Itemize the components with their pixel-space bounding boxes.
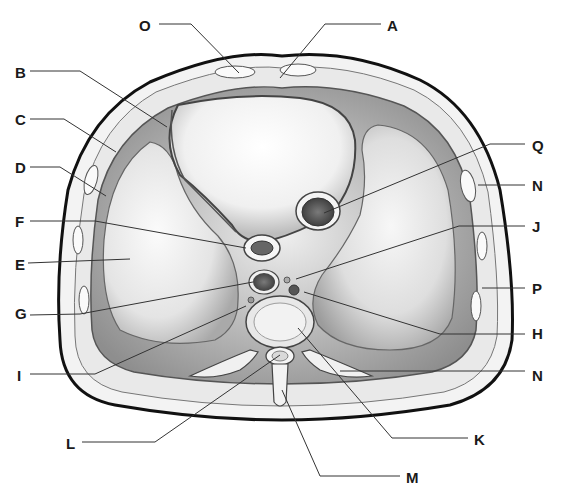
label-l: L [66, 436, 75, 451]
leader-line-l [82, 355, 280, 442]
leader-line-q [324, 144, 525, 213]
leader-line-k [298, 328, 468, 438]
label-n-lower: N [532, 368, 543, 383]
leader-lines [0, 0, 561, 498]
leader-line-g [30, 282, 253, 315]
label-q: Q [532, 138, 544, 153]
label-i: I [17, 368, 21, 383]
leader-line-f [30, 221, 246, 248]
label-b: B [15, 65, 26, 80]
leader-line-j [296, 226, 525, 279]
leader-line-c [30, 119, 116, 152]
label-m: M [406, 470, 419, 485]
label-d: D [15, 160, 26, 175]
label-a: A [387, 18, 398, 33]
thorax-cross-section-diagram: O A B C D F E G I L Q N J P H N K M [0, 0, 561, 498]
leader-line-i [30, 306, 246, 374]
label-o: O [139, 18, 151, 33]
leader-line-d [30, 167, 106, 196]
label-e: E [15, 257, 25, 272]
label-k: K [474, 432, 485, 447]
label-n-upper: N [532, 178, 543, 193]
label-h: H [532, 326, 543, 341]
leader-line-o [159, 24, 239, 73]
label-g: G [15, 306, 27, 321]
leader-line-e [28, 259, 130, 263]
leader-line-h [304, 292, 525, 334]
label-p: P [532, 281, 542, 296]
leader-line-a [280, 24, 381, 78]
label-j: J [532, 219, 540, 234]
label-f: F [15, 214, 24, 229]
label-c: C [15, 112, 26, 127]
leader-line-m [282, 390, 400, 476]
